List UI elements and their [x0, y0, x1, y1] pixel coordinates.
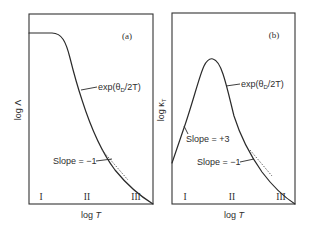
panel-b-slope-tangent — [250, 150, 272, 176]
panel-b: (b) exp(θD/2T) Slope = +3 Slope = −1 I I… — [156, 13, 295, 220]
panel-b-region-III: III — [276, 192, 286, 202]
panel-a-region-I: I — [39, 192, 42, 202]
panel-b-y-axis-label: log κT — [156, 98, 167, 121]
panel-a-slope-label: Slope = −1 — [53, 156, 97, 166]
panel-a-slope-tangent — [102, 150, 128, 180]
panel-b-region-II: II — [229, 192, 235, 202]
panel-b-exp-pointer — [226, 84, 240, 86]
panel-b-region-I: I — [183, 192, 186, 202]
panel-b-slope-pos-label: Slope = +3 — [186, 134, 230, 144]
panel-b-slope-neg-label: Slope = −1 — [197, 157, 241, 167]
panel-b-x-axis-label: log T — [224, 210, 246, 220]
panel-a-y-axis-label: log Λ — [13, 100, 23, 121]
panel-a-frame — [29, 14, 153, 204]
panel-a: (a) exp(θD/2T) Slope = −1 I II III log T… — [13, 14, 153, 220]
panel-a-exp-pointer — [81, 87, 97, 90]
panel-a-region-II: II — [84, 192, 90, 202]
panel-b-exp-label: exp(θD/2T) — [241, 79, 284, 90]
panel-a-exp-label: exp(θD/2T) — [98, 82, 141, 93]
panel-b-slope-pos-pointer — [184, 126, 188, 134]
panel-a-slope-pointer — [96, 159, 112, 161]
panel-a-curve — [29, 33, 153, 204]
panel-a-x-axis-label: log T — [81, 210, 103, 220]
panel-a-tag: (a) — [122, 31, 132, 41]
figure: (a) exp(θD/2T) Slope = −1 I II III log T… — [0, 0, 312, 227]
panel-b-tag: (b) — [269, 30, 280, 40]
panel-b-slope-neg-pointer — [240, 159, 254, 162]
panel-a-region-III: III — [131, 192, 141, 202]
